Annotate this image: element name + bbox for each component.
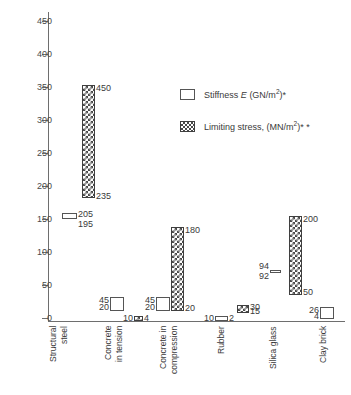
bar-concrete-in-compression-limiting-stress: 180 20 — [171, 227, 184, 311]
bar-value-low: 20 — [185, 304, 195, 313]
bar-value-high: 180 — [185, 226, 200, 235]
x-axis-label-silica-glass: Silica glass — [268, 326, 279, 392]
bar-value-low: 50 — [303, 288, 313, 297]
bar-value-low: 4 — [144, 314, 149, 323]
bar-value-low: 20 — [99, 303, 109, 312]
x-axis-label-rubber: Rubber — [216, 326, 227, 392]
bar-chart: 450 400 350 300 250 200 150 100 50 0 Sti… — [0, 0, 351, 395]
bar-value-high: 10 — [123, 314, 133, 323]
x-axis-label-concrete-in-tension: Concrete in tension — [103, 326, 124, 392]
bar-concrete-in-tension-limiting-stress: 10 4 — [134, 316, 143, 321]
bar-group-clay-brick: 26 4 — [320, 74, 350, 321]
bar-value-high: 10 — [204, 314, 214, 323]
bar-value-low: 20 — [145, 303, 155, 312]
bar-value-low: 235 — [96, 192, 111, 201]
y-tick-label: 300 — [14, 116, 52, 125]
bar-value-low: 195 — [78, 220, 93, 229]
bar-value-low: 4 — [314, 312, 319, 321]
bar-group-rubber: 10 2 30 15 — [215, 74, 260, 321]
bar-concrete-in-tension-stiffness: 45 20 — [110, 297, 124, 310]
y-tick-label: 250 — [14, 149, 52, 158]
bar-silica-glass-stiffness: 94 92 — [270, 270, 281, 273]
bar-group-silica-glass: 94 92 200 50 — [270, 74, 315, 321]
bar-group-concrete-in-tension: 45 20 10 4 — [110, 74, 155, 321]
x-axis-label-concrete-in-compression: Concrete in compression — [158, 326, 179, 392]
bar-silica-glass-limiting-stress: 200 50 — [289, 216, 302, 295]
y-tick-label: 400 — [14, 50, 52, 59]
bar-value-high: 450 — [96, 84, 111, 93]
bar-value-low: 92 — [259, 272, 269, 281]
bar-structural-steel-limiting-stress: 450 235 — [82, 85, 95, 198]
y-tick-label: 100 — [14, 248, 52, 257]
y-tick-label: 200 — [14, 182, 52, 191]
y-tick-label: 450 — [14, 17, 52, 26]
y-tick-label: 0 — [14, 314, 52, 323]
x-axis-label-clay-brick: Clay brick — [318, 326, 329, 392]
bar-value-high: 205 — [78, 210, 93, 219]
bar-value-low: 2 — [229, 314, 234, 323]
bar-value-low: 15 — [250, 307, 260, 316]
y-tick-label: 150 — [14, 215, 52, 224]
bar-group-concrete-in-compression: 45 20 180 20 — [156, 74, 206, 321]
bar-structural-steel-stiffness: 205 195 — [62, 213, 77, 218]
x-axis-line — [48, 321, 345, 322]
x-axis-label-structural-steel: Structural steel — [48, 326, 69, 392]
bar-clay-brick-stiffness: 26 4 — [320, 307, 334, 319]
bar-rubber-limiting-stress: 30 15 — [237, 305, 249, 313]
y-tick-label: 350 — [14, 83, 52, 92]
bar-value-high: 200 — [303, 215, 318, 224]
y-tick-label: 50 — [14, 281, 52, 290]
y-axis-ticks: 450 400 350 300 250 200 150 100 50 0 — [0, 0, 52, 340]
bar-concrete-in-compression-stiffness: 45 20 — [156, 297, 170, 310]
bar-value-high: 94 — [259, 262, 269, 271]
bar-group-structural-steel: 205 195 450 235 — [62, 74, 102, 321]
bar-rubber-stiffness: 10 2 — [215, 316, 228, 321]
